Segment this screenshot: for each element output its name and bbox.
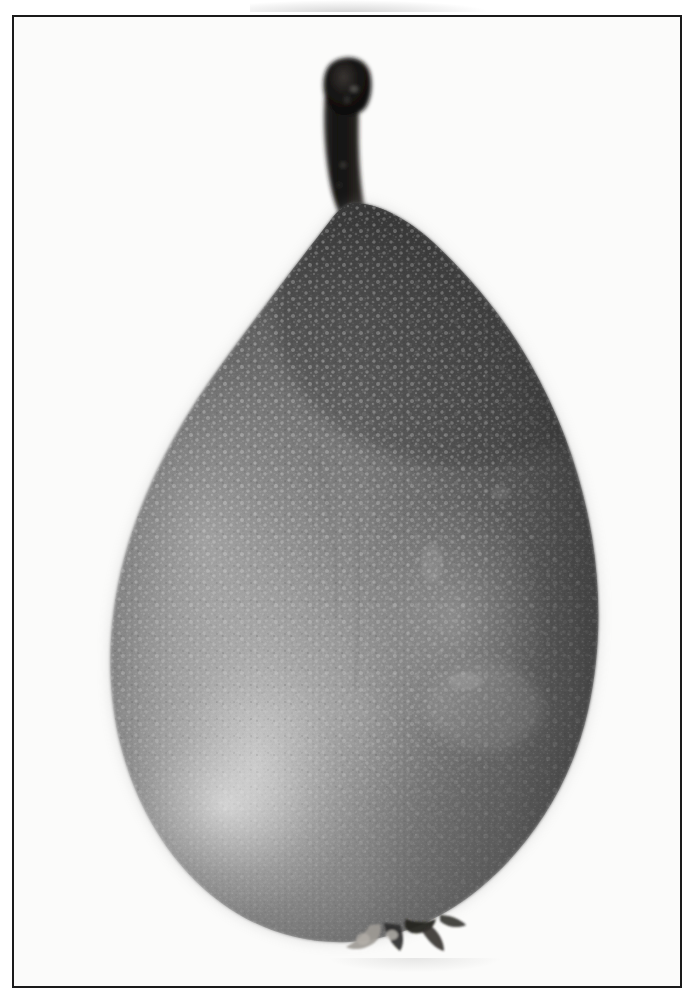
scan-smudge-top — [250, 0, 490, 12]
russet-blemish — [449, 672, 483, 690]
photographic-plate — [0, 0, 695, 995]
russet-blemish-3 — [491, 486, 509, 500]
right-flank-patch — [426, 663, 542, 751]
photograph-area — [14, 17, 680, 986]
pear-illustration — [14, 17, 680, 986]
stem-cap — [324, 58, 372, 116]
russet-blemish-2 — [421, 543, 443, 583]
plate-border-frame — [12, 15, 682, 988]
